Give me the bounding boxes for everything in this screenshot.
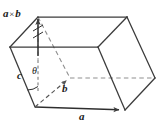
- label-a-cross-b: a×b: [3, 8, 21, 19]
- edge-right-bottom: [125, 78, 155, 110]
- edge-top-left: [10, 17, 38, 47]
- parallelepiped-figure: a×b c θ b a: [0, 0, 163, 130]
- label-vector-b: b: [62, 83, 68, 94]
- label-a-cross-b-b: b: [15, 7, 21, 19]
- label-vector-a: a: [79, 111, 85, 122]
- angle-theta-arc: [28, 87, 39, 91]
- edge-right-back: [127, 17, 155, 78]
- vector-a: [35, 107, 119, 110]
- edge-front-left-c: [10, 47, 35, 107]
- label-a-cross-b-a: a: [3, 7, 9, 19]
- edge-top-right: [98, 17, 127, 47]
- label-vector-c: c: [17, 70, 22, 81]
- solid-edges: [10, 17, 155, 110]
- label-angle-theta: θ: [32, 66, 37, 76]
